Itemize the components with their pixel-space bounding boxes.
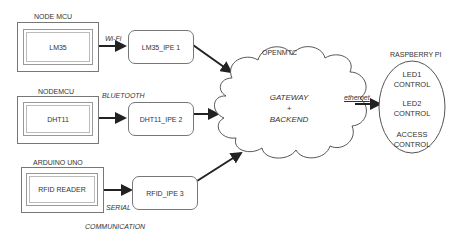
pi-item-led2-l1: LED2 — [380, 99, 444, 109]
pi-item-led1-l1: LED1 — [380, 70, 444, 80]
link-label-bluetooth: BLUETOOTH — [102, 92, 145, 99]
pi-item-access-l1: ACCESS — [380, 130, 444, 140]
cloud-line-backend: BACKEND — [255, 114, 323, 125]
pi-item-access-l2: CONTROL — [380, 140, 444, 150]
sensor-box-1: LM35 — [23, 29, 93, 65]
arrow-ipe1-cloud — [193, 45, 231, 72]
board-box-2: DHT11 — [17, 96, 99, 144]
link-label-communication: COMMUNICATION — [85, 223, 145, 230]
board-box-3: RFID READER — [21, 167, 104, 213]
board-label-3: ARDUINO UNO — [33, 159, 83, 166]
pi-title: RASPBERRY PI — [390, 51, 442, 58]
pi-item-led2-l2: CONTROL — [380, 109, 444, 119]
pi-item-access: ACCESS CONTROL — [380, 130, 444, 150]
arrow-ipe3-cloud — [197, 153, 241, 181]
cloud-title: OPENMTC — [262, 49, 297, 56]
ipe-box-3: RFID_IPE 3 — [132, 176, 198, 210]
board-box-1: LM35 — [17, 22, 99, 72]
cloud-content: GATEWAY + BACKEND — [255, 92, 323, 125]
cloud-line-plus: + — [255, 103, 323, 114]
sensor-box-3: RFID READER — [26, 173, 98, 206]
board-label-2: NODEMCU — [38, 88, 74, 95]
ipe-box-1: LM35_IPE 1 — [128, 30, 194, 64]
pi-item-led1-l2: CONTROL — [380, 80, 444, 90]
pi-item-led2: LED2 CONTROL — [380, 99, 444, 119]
link-label-ethernet: ethernet — [344, 94, 370, 101]
cloud-line-gateway: GATEWAY — [255, 92, 323, 103]
sensor-box-2: DHT11 — [23, 102, 93, 136]
ipe-box-2: DHT11_IPE 2 — [128, 102, 194, 136]
board-label-1: NODE MCU — [34, 13, 72, 20]
pi-item-led1: LED1 CONTROL — [380, 70, 444, 90]
link-label-wifi: Wi-Fi — [105, 35, 121, 42]
link-label-serial: SERIAL — [106, 204, 131, 211]
